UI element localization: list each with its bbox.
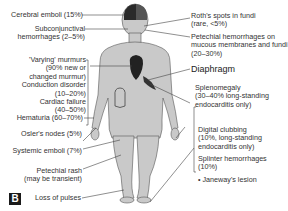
label-janeways-lesion: • Janeway's lesion — [198, 176, 257, 184]
label-line: (rare, <5%) — [191, 20, 256, 28]
label-splenomegaly: Splenomegaly (30–40% long-standing endoc… — [195, 84, 269, 109]
label-line: Hematuria (60–70%) — [17, 114, 83, 122]
label-line: Systemic emboli (7%) — [13, 147, 83, 155]
label-line: endocarditis only) — [195, 101, 269, 109]
label-roths-spots: Roth's spots in fundi (rare, <5%) — [191, 12, 256, 29]
brain-emboli-region — [124, 4, 136, 20]
label-line: (may be transient) — [24, 175, 82, 183]
label-line: Loss of pulses — [35, 194, 81, 202]
label-line: (20–30%) — [191, 50, 288, 58]
label-line: Diaphragm — [191, 64, 235, 74]
label-diaphragm: Diaphragm — [191, 64, 235, 74]
label-line: endocarditis only) — [198, 143, 262, 151]
label-line: Cerebral emboli (15%) — [11, 11, 83, 19]
label-loss-of-pulses: Loss of pulses — [35, 194, 81, 202]
label-splinter-hemorrhages: Splinter hemorrhages (10%) — [198, 155, 267, 172]
label-line: • Janeway's lesion — [198, 176, 257, 184]
label-subconjunctival: Subconjunctival hemorrhages (2–5%) — [17, 25, 85, 42]
label-cerebral-emboli: Cerebral emboli (15%) — [11, 11, 83, 19]
label-petechial-rash: Petechial rash (may be transient) — [24, 167, 82, 184]
label-line: (10%) — [198, 163, 267, 171]
label-oslers-nodes: Osler's nodes (5%) — [21, 130, 82, 138]
human-body-figure — [91, 4, 179, 203]
label-murmurs: 'Varying' murmurs (90% new or changed mu… — [22, 56, 86, 115]
label-hematuria: Hematuria (60–70%) — [17, 114, 83, 122]
label-petechial-hemorrhages: Petechial hemorrhages on mucous membrane… — [191, 33, 288, 58]
label-line: hemorrhages (2–5%) — [17, 33, 85, 41]
label-digital-clubbing: Digital clubbing (10%, long-standing end… — [198, 126, 262, 151]
label-line: Osler's nodes (5%) — [21, 130, 82, 138]
panel-label: B — [9, 193, 21, 205]
label-systemic-emboli: Systemic emboli (7%) — [13, 147, 83, 155]
